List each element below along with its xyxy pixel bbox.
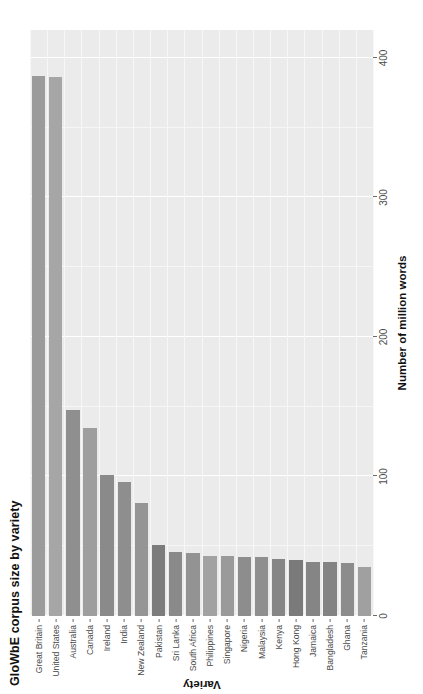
category-label: New Zealand (136, 625, 146, 676)
category-tick-mark (210, 619, 211, 623)
category-tick-mark (55, 619, 56, 623)
category-tick-mark (124, 619, 125, 623)
bar (152, 545, 165, 616)
category-label: Great Britain (34, 625, 44, 673)
category-tick-mark (295, 619, 296, 623)
bar (238, 557, 251, 616)
category-tick-mark (107, 619, 108, 623)
category-label: Nigeria (239, 625, 249, 652)
category-label: Ghana (342, 625, 352, 651)
bar (255, 557, 268, 616)
bar (221, 556, 234, 616)
bar (169, 552, 182, 616)
value-tick-mark (373, 197, 377, 198)
plot-panel (30, 30, 373, 616)
category-tick-mark (38, 619, 39, 623)
category-label: Bangladesh (325, 625, 335, 670)
category-label: Malaysia (257, 625, 267, 659)
value-axis-title: Number of million words (396, 30, 408, 616)
category-tick-mark (261, 619, 262, 623)
category-label: Tanzania (359, 625, 369, 659)
value-tick-label: 400 (378, 50, 389, 67)
category-label: Pakistan (154, 625, 164, 658)
bar (118, 482, 131, 616)
bar-series (30, 30, 373, 616)
bar (83, 428, 96, 616)
category-label: Hong Kong (291, 625, 301, 668)
bar (32, 76, 45, 616)
category-label: Jamaica (308, 625, 318, 657)
chart-figure: GloWbE corpus size by variety 0100200300… (0, 0, 423, 694)
category-tick-mark (90, 619, 91, 623)
category-axis-title-text: Variety (183, 679, 221, 691)
category-label: Australia (68, 625, 78, 658)
category-tick-mark (141, 619, 142, 623)
category-label: Philippines (205, 625, 215, 667)
bar (289, 560, 302, 616)
value-tick-label: 100 (378, 468, 389, 485)
category-label: India (119, 625, 129, 644)
category-label: Ireland (102, 625, 112, 651)
category-axis-title: Variety (30, 678, 373, 692)
bar (49, 77, 62, 616)
value-tick-mark (373, 336, 377, 337)
category-tick-mark (313, 619, 314, 623)
bar (135, 503, 148, 616)
bar (100, 475, 113, 616)
category-tick-mark (175, 619, 176, 623)
value-tick-label: 200 (378, 329, 389, 346)
bar (66, 410, 79, 616)
bar (203, 556, 216, 616)
bar (186, 553, 199, 616)
category-tick-mark (364, 619, 365, 623)
bar (306, 562, 319, 616)
chart-title: GloWbE corpus size by variety (8, 500, 22, 686)
bar (358, 567, 371, 616)
category-label: Singapore (222, 625, 232, 664)
value-tick-label: 300 (378, 189, 389, 206)
category-label: Canada (85, 625, 95, 655)
rotated-figure-wrapper: GloWbE corpus size by variety 0100200300… (0, 0, 423, 694)
category-tick-mark (227, 619, 228, 623)
bar (341, 563, 354, 616)
category-tick-mark (347, 619, 348, 623)
category-tick-mark (330, 619, 331, 623)
value-tick-mark (373, 476, 377, 477)
value-axis-ticks: 0100200300400 (373, 30, 395, 616)
category-label: Kenya (274, 625, 284, 649)
bar (272, 559, 285, 616)
category-label: South Africa (188, 625, 198, 671)
category-label: United States (51, 625, 61, 677)
category-tick-mark (158, 619, 159, 623)
category-tick-mark (193, 619, 194, 623)
category-tick-mark (244, 619, 245, 623)
category-tick-mark (278, 619, 279, 623)
value-tick-mark (373, 615, 377, 616)
bar (323, 562, 336, 616)
value-tick-label: 0 (378, 613, 389, 619)
category-tick-mark (72, 619, 73, 623)
value-tick-mark (373, 57, 377, 58)
category-label: Sri Lanka (171, 625, 181, 661)
